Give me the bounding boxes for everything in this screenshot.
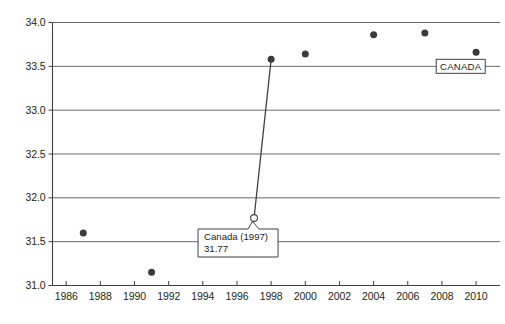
y-tick-label: 31.5	[25, 235, 45, 247]
x-tick-label: 2008	[430, 290, 453, 302]
x-tick-label: 1988	[89, 290, 112, 302]
x-tick-label: 1998	[260, 290, 283, 302]
highlight-connector-line	[254, 59, 271, 218]
connector-line	[254, 59, 271, 218]
y-tick-label: 34.0	[25, 16, 45, 28]
data-point	[421, 30, 428, 37]
y-tick-label: 32.5	[25, 148, 45, 160]
highlighted-marker	[251, 215, 258, 222]
callout-value: 31.77	[204, 243, 228, 254]
y-axis-ticks: 31.031.532.032.533.033.534.0	[25, 16, 52, 291]
chart-container: 31.031.532.032.533.033.534.0 19861988199…	[0, 0, 505, 324]
series-label-canada: CANADA	[436, 59, 485, 73]
y-tick-label: 32.0	[25, 191, 45, 203]
scatter-chart: 31.031.532.032.533.033.534.0 19861988199…	[0, 0, 505, 324]
x-tick-label: 2004	[362, 290, 385, 302]
data-point	[302, 51, 309, 58]
x-tick-label: 2010	[465, 290, 488, 302]
x-tick-label: 1994	[191, 290, 214, 302]
highlighted-data-point	[251, 215, 258, 222]
callout-title: Canada (1997)	[204, 231, 268, 242]
data-point	[370, 31, 377, 38]
x-tick-label: 2002	[328, 290, 351, 302]
series-label-text: CANADA	[440, 61, 482, 72]
callout-annotation: Canada (1997)31.77	[198, 221, 278, 257]
gridlines	[53, 23, 501, 242]
x-tick-label: 1992	[157, 290, 180, 302]
y-tick-label: 33.0	[25, 104, 45, 116]
x-tick-label: 1986	[55, 290, 78, 302]
data-point	[80, 229, 87, 236]
y-tick-label: 31.0	[25, 279, 45, 291]
data-point	[148, 269, 155, 276]
x-tick-label: 2006	[396, 290, 419, 302]
data-point	[473, 49, 480, 56]
y-tick-label: 33.5	[25, 60, 45, 72]
data-point	[268, 56, 275, 63]
x-axis-ticks: 1986198819901992199419961998200020022004…	[55, 281, 488, 302]
x-tick-label: 1996	[225, 290, 248, 302]
x-tick-label: 1990	[123, 290, 146, 302]
x-tick-label: 2000	[294, 290, 317, 302]
